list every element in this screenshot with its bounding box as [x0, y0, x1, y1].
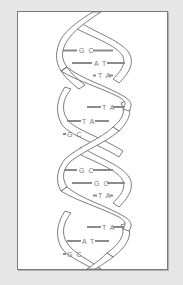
base-pair-label: G C: [79, 167, 94, 174]
base-pair-label: T A: [102, 224, 115, 231]
base-pair-label: T A: [98, 192, 111, 199]
base-pair-label: G C: [94, 180, 109, 187]
base-pair-label: G C: [67, 251, 82, 258]
dna-helix: G C A T T A T A T A G C G C G C T A T A …: [18, 12, 167, 269]
base-pair-label: T A: [82, 118, 95, 125]
base-pair-label: A T: [82, 238, 95, 245]
base-pair-label: T A: [102, 104, 115, 111]
base-pair-label: A T: [94, 60, 107, 67]
base-pair-label: G C: [67, 131, 82, 138]
base-pair-label: T A: [98, 72, 111, 79]
diagram-frame: G C A T T A T A T A G C G C G C T A T A …: [17, 11, 168, 270]
base-pair-label: G C: [79, 47, 94, 54]
